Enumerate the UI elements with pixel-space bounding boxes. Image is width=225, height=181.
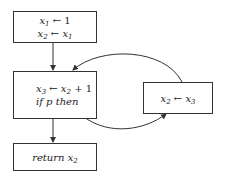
assign-x1: x1 ← 1 <box>39 14 70 27</box>
loop-header-block: x3 ← x2 + 1 if p then <box>13 71 97 119</box>
exit-block: return x2 <box>13 143 97 171</box>
return-statement: return x2 <box>32 151 78 164</box>
assign-x2-from-x3: x2 ← x3 <box>161 92 196 105</box>
assign-x3: x3 ← x2 + 1 <box>36 82 92 95</box>
loop-body-block: x2 ← x3 <box>143 82 213 114</box>
assign-x2: x2 ← x1 <box>38 27 73 40</box>
entry-block: x1 ← 1 x2 ← x1 <box>13 11 97 43</box>
if-condition: if p then <box>36 95 78 108</box>
